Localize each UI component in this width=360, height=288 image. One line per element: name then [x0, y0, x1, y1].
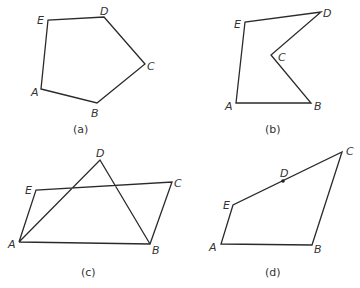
vertex-label-a-D: D	[100, 5, 108, 18]
vertex-label-c-B: B	[152, 244, 160, 257]
figure-c: A B C D E (c)	[7, 147, 182, 279]
vertex-label-a-C: C	[147, 60, 155, 73]
vertex-label-b-E: E	[234, 18, 241, 31]
vertex-label-d-B: B	[314, 243, 322, 256]
vertex-label-c-E: E	[25, 184, 32, 197]
vertex-label-b-A: A	[224, 100, 233, 113]
vertex-label-b-D: D	[323, 7, 331, 20]
vertex-label-a-E: E	[37, 14, 44, 27]
polygon-a	[41, 17, 145, 103]
caption-a: (a)	[73, 123, 88, 136]
figure-d: A B C D E (d)	[208, 145, 354, 279]
vertex-label-c-A: A	[7, 238, 16, 251]
figure-b: A B C D E (b)	[224, 7, 331, 136]
polygon-d	[221, 152, 342, 245]
caption-d: (d)	[265, 266, 281, 279]
caption-c: (c)	[81, 266, 96, 279]
vertex-label-b-B: B	[314, 100, 322, 113]
vertex-label-d-C: C	[346, 145, 354, 158]
caption-b: (b)	[265, 123, 281, 136]
vertex-label-d-D: D	[280, 167, 288, 180]
vertex-label-c-D: D	[96, 147, 104, 160]
vertex-label-a-A: A	[30, 86, 39, 99]
figure-a: A B C D E (a)	[30, 5, 155, 136]
polyline-c	[19, 160, 172, 244]
vertex-label-b-C: C	[278, 51, 286, 64]
vertex-label-c-C: C	[174, 177, 182, 190]
vertex-label-d-E: E	[223, 199, 230, 212]
vertex-label-a-B: B	[91, 107, 99, 120]
vertex-label-d-A: A	[208, 241, 217, 254]
pentagon-diagrams: A B C D E (a) A B C D E (b) A B C D E (c…	[0, 0, 360, 288]
